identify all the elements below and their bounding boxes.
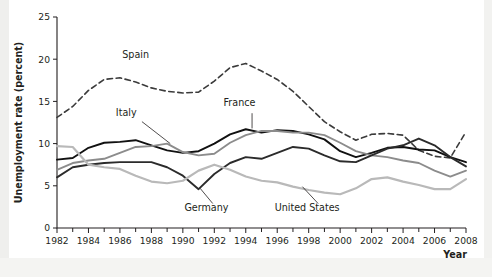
chart-figure: 0510152025198219841986198819901992199419…	[0, 0, 492, 277]
x-tick-label: 2004	[391, 235, 415, 246]
x-tick-label: 1988	[140, 235, 164, 246]
chart-series	[57, 63, 466, 194]
axis-spines	[57, 17, 466, 228]
series-annotation-germany: Germany	[184, 202, 228, 213]
x-tick-label: 1984	[77, 235, 101, 246]
x-tick-label: 1990	[171, 235, 195, 246]
x-tick-label: 1998	[297, 235, 321, 246]
y-axis-title: Unemployment rate (percent)	[13, 42, 24, 204]
x-tick-label: 2006	[423, 235, 447, 246]
x-tick-label: 2000	[328, 235, 352, 246]
y-tick-label: 20	[38, 54, 50, 65]
x-tick-label: 1986	[108, 235, 132, 246]
page-edge-right	[484, 0, 492, 277]
series-annotation-italy: Italy	[116, 107, 137, 118]
page-edge-left	[0, 0, 9, 277]
y-tick-label: 25	[38, 11, 50, 22]
x-tick-label: 1982	[45, 235, 68, 246]
series-annotation-france: France	[224, 97, 256, 108]
x-tick-label: 2002	[360, 235, 383, 246]
chart-axis-titles: Unemployment rate (percent)Year	[13, 42, 467, 260]
leader-line-italy	[142, 122, 170, 144]
line-chart: 0510152025198219841986198819901992199419…	[0, 0, 492, 277]
chart-axes: 0510152025198219841986198819901992199419…	[38, 11, 478, 246]
y-tick-label: 15	[38, 96, 50, 107]
y-tick-label: 5	[44, 180, 50, 191]
series-annotation-united-states: United States	[275, 202, 340, 213]
page-edge-bottom	[0, 258, 492, 277]
x-tick-label: 1996	[266, 235, 290, 246]
x-tick-label: 1992	[203, 235, 226, 246]
y-tick-label: 10	[38, 138, 50, 149]
series-annotation-spain: Spain	[122, 49, 149, 60]
series-line-france	[57, 129, 466, 162]
x-tick-label: 1994	[234, 235, 258, 246]
y-tick-label: 0	[44, 222, 50, 233]
x-tick-label: 2008	[454, 235, 478, 246]
